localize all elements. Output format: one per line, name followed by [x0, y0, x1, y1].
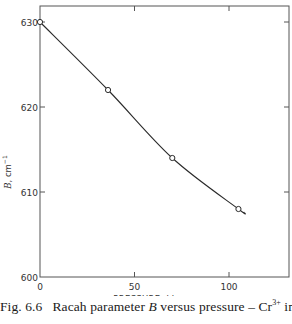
caption-text-end: in [281, 299, 292, 314]
svg-text:610: 610 [21, 188, 38, 198]
svg-text:630: 630 [21, 18, 38, 28]
plot-frame [40, 6, 289, 277]
data-curve [40, 22, 245, 214]
svg-text:50: 50 [129, 282, 141, 292]
data-point-marker [236, 206, 241, 211]
svg-text:620: 620 [21, 103, 38, 113]
y-axis-label: B, cm−1 [1, 155, 13, 190]
data-point-marker [37, 19, 42, 24]
tick-labels: 050100600610620630 [21, 18, 238, 293]
figure-caption: Fig. 6.6Racah parameter B versus pressur… [0, 298, 292, 315]
svg-text:100: 100 [220, 282, 237, 292]
x-axis-label: PRESSURE, kbar [113, 294, 187, 296]
figure-label: Fig. 6.6 [0, 299, 42, 314]
data-point-marker [105, 87, 110, 92]
data-markers [37, 19, 241, 211]
axis-ticks [40, 6, 289, 277]
svg-text:B, cm−1: B, cm−1 [1, 155, 13, 190]
caption-text-2: versus pressure – Cr [157, 299, 272, 314]
caption-text: Racah parameter [52, 299, 148, 314]
svg-text:600: 600 [21, 273, 38, 283]
chart: 050100600610620630 PRESSURE, kbar B, cm−… [0, 0, 292, 296]
caption-symbol-b: B [148, 299, 156, 314]
data-point-marker [170, 155, 175, 160]
caption-superscript: 3+ [272, 298, 281, 307]
svg-text:0: 0 [37, 282, 43, 292]
